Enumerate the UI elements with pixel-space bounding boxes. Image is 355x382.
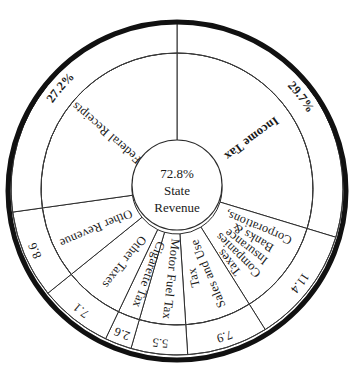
center-line2: Revenue [154, 200, 200, 215]
center-line1: State [164, 183, 190, 198]
value-motor-fuel-tax: 5.5 [151, 335, 168, 351]
center-percent: 72.8% [160, 166, 194, 181]
chart-canvas: Income TaxCorporations,Banks &InsuranceC… [0, 0, 355, 382]
revenue-sunburst-chart: Income TaxCorporations,Banks &InsuranceC… [0, 0, 355, 382]
